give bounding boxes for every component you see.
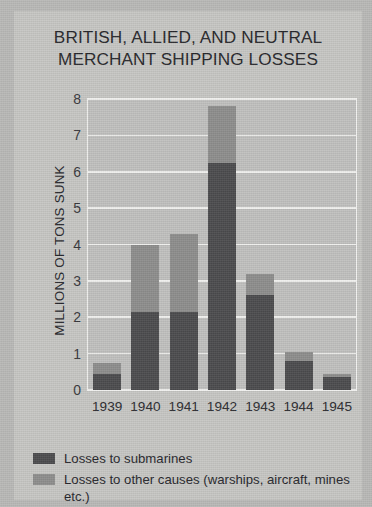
y-axis-tick-label: 3 [73,273,81,289]
y-axis-tick-label: 4 [73,237,81,253]
chart: MILLIONS OF TONS SUNK 012345678 19391940… [14,11,362,500]
bar-segment-submarines [170,312,198,390]
bar-segment-other-causes [208,106,236,162]
bar-1940[interactable]: 1940 [131,99,159,390]
bar-segment-other-causes [285,352,313,361]
bar-segment-submarines [131,312,159,390]
legend-item-0[interactable]: Losses to submarines [33,450,353,468]
bar-group: 1939194019411942194319441945 [88,99,356,390]
bar-1945[interactable]: 1945 [323,99,351,390]
bar-segment-submarines [208,163,236,390]
legend-label: Losses to submarines [64,450,353,468]
chart-card: BRITISH, ALLIED, AND NEUTRAL MERCHANT SH… [14,11,362,500]
bar-segment-submarines [285,361,313,390]
y-axis-tick-label: 5 [73,200,81,216]
legend-swatch-submarines [33,453,55,464]
y-axis-tick-label: 0 [73,382,81,398]
bar-1939[interactable]: 1939 [93,99,121,390]
legend-swatch-other [33,474,55,485]
bar-segment-submarines [323,377,351,390]
bar-segment-other-causes [170,234,198,312]
y-axis-label: MILLIONS OF TONS SUNK [52,146,67,356]
bar-segment-submarines [93,374,121,390]
x-axis-tick-label-1940: 1940 [130,399,160,414]
legend-label: Losses to other causes (warships, aircra… [64,471,353,506]
bar-segment-submarines [246,295,274,390]
legend-item-1[interactable]: Losses to other causes (warships, aircra… [33,471,353,506]
y-axis-tick-label: 2 [73,309,81,325]
x-axis-tick-label-1945: 1945 [322,399,352,414]
x-axis-tick-label-1942: 1942 [207,399,237,414]
y-axis-tick-label: 8 [73,91,81,107]
y-axis-tick-label: 1 [73,346,81,362]
chart-poster: BRITISH, ALLIED, AND NEUTRAL MERCHANT SH… [0,0,372,507]
plot-area: 012345678 1939194019411942194319441945 [87,98,357,391]
x-axis-tick-label-1943: 1943 [245,399,275,414]
bar-1943[interactable]: 1943 [246,99,274,390]
x-axis-tick-label-1941: 1941 [169,399,199,414]
bar-segment-other-causes [246,274,274,296]
x-axis-tick-label-1939: 1939 [92,399,122,414]
bar-1942[interactable]: 1942 [208,99,236,390]
bar-1941[interactable]: 1941 [170,99,198,390]
x-axis-tick-label-1944: 1944 [283,399,313,414]
bar-1944[interactable]: 1944 [285,99,313,390]
bar-segment-other-causes [131,245,159,312]
y-axis-tick-label: 7 [73,127,81,143]
y-axis-tick-label: 6 [73,164,81,180]
bar-segment-other-causes [93,363,121,374]
legend: Losses to submarinesLosses to other caus… [33,450,353,507]
